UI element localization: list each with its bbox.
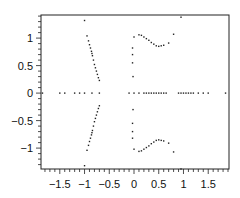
data-point: [163, 92, 164, 93]
data-point: [163, 45, 164, 46]
x-tick-label: −1: [78, 178, 91, 190]
data-point: [74, 92, 75, 93]
data-point: [193, 92, 194, 93]
data-point: [138, 151, 139, 152]
data-point: [59, 92, 60, 93]
x-tick-label: 0: [131, 178, 137, 190]
data-point: [208, 92, 209, 93]
data-point: [92, 130, 93, 131]
data-point: [188, 92, 189, 93]
data-point: [180, 17, 181, 18]
data-point: [156, 92, 157, 93]
data-point: [99, 92, 100, 93]
data-point: [98, 108, 99, 109]
data-point: [178, 92, 179, 93]
data-point: [156, 45, 157, 46]
data-point: [91, 134, 92, 135]
data-point: [146, 147, 147, 148]
data-point: [92, 55, 93, 56]
data-point: [89, 44, 90, 45]
data-point: [161, 45, 162, 46]
data-point: [148, 40, 149, 41]
data-point: [79, 92, 80, 93]
data-point: [138, 34, 139, 35]
data-point: [94, 121, 95, 122]
y-tick-label: −0.5: [11, 115, 33, 127]
data-point: [138, 92, 139, 93]
data-point: [180, 92, 181, 93]
data-point: [148, 145, 149, 146]
y-tick-label: 1: [27, 32, 33, 44]
data-point: [132, 54, 133, 55]
data-point: [89, 141, 90, 142]
x-tick-label: −0.5: [98, 178, 120, 190]
y-tick-label: 0.5: [18, 60, 33, 72]
data-point: [133, 92, 134, 93]
data-point: [84, 165, 85, 166]
data-point: [153, 92, 154, 93]
x-tick-label: −1.5: [49, 178, 71, 190]
data-point: [98, 77, 99, 78]
scatter-chart: −1.5−1−0.500.511.510.50−0.5−1: [0, 0, 240, 198]
data-point: [148, 92, 149, 93]
data-point: [168, 42, 169, 43]
data-point: [141, 35, 142, 36]
data-point: [158, 92, 159, 93]
data-point: [132, 109, 133, 110]
data-point: [198, 92, 199, 93]
data-point: [151, 42, 152, 43]
data-point: [97, 74, 98, 75]
data-point: [163, 140, 164, 141]
data-point: [141, 150, 142, 151]
data-point: [93, 125, 94, 126]
data-point: [99, 105, 100, 106]
data-point: [168, 142, 169, 143]
x-tick-label: 0.5: [151, 178, 166, 190]
data-point: [180, 168, 181, 169]
data-point: [156, 140, 157, 141]
data-point: [132, 62, 133, 63]
data-point: [88, 145, 89, 146]
data-point: [132, 123, 133, 124]
data-point: [161, 92, 162, 93]
data-point: [42, 92, 43, 93]
data-point: [158, 46, 159, 47]
data-point: [96, 114, 97, 115]
data-point: [94, 64, 95, 65]
data-point: [132, 76, 133, 77]
data-point: [84, 20, 85, 21]
data-point: [64, 92, 65, 93]
data-point: [158, 139, 159, 140]
data-point: [203, 92, 204, 93]
data-point: [99, 80, 100, 81]
data-point: [153, 141, 154, 142]
data-point: [143, 36, 144, 37]
data-point: [91, 92, 92, 93]
data-point: [91, 53, 92, 54]
data-point: [161, 140, 162, 141]
data-point: [90, 47, 91, 48]
data-point: [173, 34, 174, 35]
data-point: [153, 43, 154, 44]
data-point: [151, 143, 152, 144]
data-point: [173, 151, 174, 152]
data-point: [84, 92, 85, 93]
data-point: [183, 92, 184, 93]
plot-area: [41, 15, 229, 169]
data-point: [91, 132, 92, 133]
data-point: [185, 92, 186, 93]
data-point: [143, 92, 144, 93]
data-point: [132, 131, 133, 132]
data-point: [133, 36, 134, 37]
y-tick-label: 0: [27, 87, 33, 99]
x-tick-label: 1: [180, 178, 186, 190]
data-point: [165, 92, 166, 93]
data-point: [143, 149, 144, 150]
data-point: [146, 38, 147, 39]
data-point: [86, 35, 87, 36]
data-point: [132, 138, 133, 139]
y-tick-label: −1: [20, 142, 33, 154]
data-point: [88, 40, 89, 41]
data-point: [95, 67, 96, 68]
data-point: [90, 138, 91, 139]
